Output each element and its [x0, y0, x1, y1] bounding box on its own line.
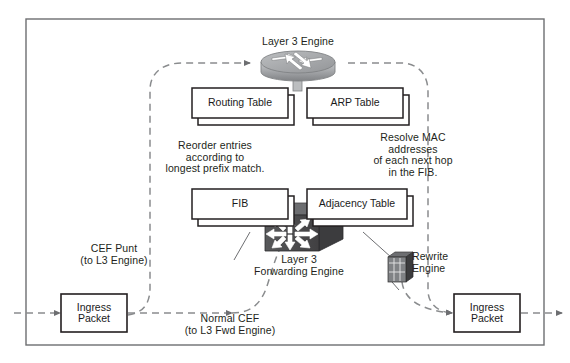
routing-table-label: Routing Table	[192, 88, 288, 118]
cef-punt-annotation: CEF Punt (to L3 Engine)	[62, 243, 166, 266]
router-icon	[261, 51, 335, 91]
fib-label: FIB	[192, 189, 288, 219]
diagram-canvas: Layer 3 Engine Routing Table ARP Table R…	[0, 0, 570, 363]
ingress-packet-left-label: Ingress Packet	[61, 294, 127, 332]
adjacency-table-label: Adjacency Table	[307, 189, 407, 219]
normal-cef-annotation: Normal CEF (to L3 Fwd Engine)	[152, 313, 308, 336]
arp-table-label: ARP Table	[307, 88, 403, 118]
flow-rewrite-to-egress	[402, 282, 452, 313]
ingress-packet-right-label: Ingress Packet	[454, 294, 520, 332]
resolve-annotation: Resolve MAC addresses of each next hop i…	[357, 132, 469, 178]
link-adjacency-rewrite	[363, 232, 392, 258]
rewrite-engine-label: Rewrite Engine	[412, 251, 468, 274]
link-rewrite-down	[392, 282, 399, 290]
layer3-forwarding-engine-label: Layer 3 Forwarding Engine	[243, 254, 355, 277]
reorder-annotation: Reorder entries according to longest pre…	[155, 140, 275, 175]
rewrite-box-icon	[388, 252, 413, 282]
layer3-engine-label: Layer 3 Engine	[248, 36, 348, 48]
